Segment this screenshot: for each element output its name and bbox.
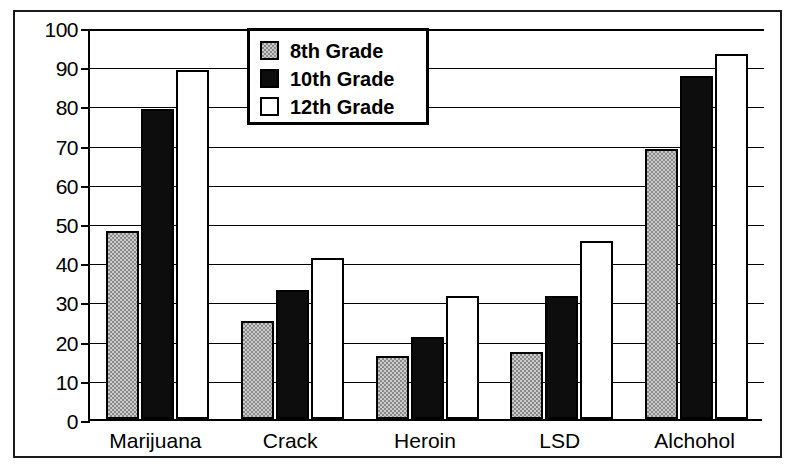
gray-checkered-swatch-icon [260, 41, 279, 60]
legend-label: 10th Grade [290, 69, 394, 89]
y-axis-tick [81, 303, 90, 305]
legend-label: 8th Grade [290, 41, 383, 61]
y-axis-tick-label: 70 [18, 137, 78, 158]
y-axis-tick [81, 343, 90, 345]
white-swatch-icon [260, 97, 279, 116]
y-axis-tick [81, 147, 90, 149]
y-axis-tick-label: 90 [18, 58, 78, 79]
y-axis-tick [81, 225, 90, 227]
x-axis-category-label: Marijuana [88, 428, 223, 453]
x-axis-category-label: Heroin [358, 428, 493, 453]
y-axis-tick [81, 421, 90, 423]
y-axis-tick-label: 0 [18, 411, 78, 432]
y-axis-tick [81, 186, 90, 188]
bar [446, 296, 479, 419]
bar [176, 70, 209, 419]
y-axis-tick-label: 10 [18, 372, 78, 393]
y-axis-tick-label: 80 [18, 97, 78, 118]
bar [411, 337, 444, 419]
bar [645, 149, 678, 419]
black-swatch-icon [260, 69, 279, 88]
y-axis-tick-label: 30 [18, 293, 78, 314]
bar [580, 241, 613, 419]
bar [276, 290, 309, 419]
bar [715, 54, 748, 419]
bar [241, 321, 274, 419]
bar [141, 109, 174, 419]
legend-label: 12th Grade [290, 97, 394, 117]
bar [106, 231, 139, 419]
bar-chart-figure: 0102030405060708090100 MarijuanaCrackHer… [0, 0, 792, 467]
y-axis-tick-label: 50 [18, 215, 78, 236]
legend-item-12th-grade: 12th Grade [260, 93, 426, 120]
bar [680, 76, 713, 419]
y-axis-tick-label: 20 [18, 333, 78, 354]
y-axis-tick-label: 60 [18, 176, 78, 197]
y-axis-tick [81, 29, 90, 31]
y-axis-tick [81, 264, 90, 266]
bar [311, 258, 344, 419]
y-axis-tick-labels: 0102030405060708090100 [10, 0, 78, 467]
x-axis-category-label: Crack [223, 428, 358, 453]
chart-legend: 8th Grade 10th Grade 12th Grade [247, 28, 429, 125]
x-axis-category-label: LSD [492, 428, 627, 453]
y-axis-tick-label: 40 [18, 254, 78, 275]
y-axis-tick [81, 382, 90, 384]
y-axis-tick [81, 68, 90, 70]
x-axis-category-label: Alchohol [627, 428, 762, 453]
bar [510, 352, 543, 419]
y-axis-tick-label: 100 [18, 19, 78, 40]
legend-item-10th-grade: 10th Grade [260, 65, 426, 92]
bar [545, 296, 578, 419]
x-axis-category-labels: MarijuanaCrackHeroinLSDAlchohol [88, 428, 762, 460]
bar [376, 356, 409, 419]
y-axis-tick [81, 107, 90, 109]
legend-item-8th-grade: 8th Grade [260, 37, 426, 64]
